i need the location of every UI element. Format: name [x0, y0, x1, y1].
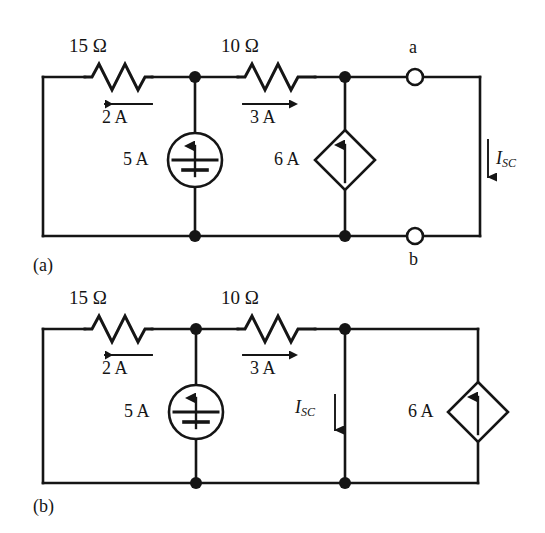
label-terminal-a: a	[409, 38, 417, 56]
resistor-b-10-ohm-symbol	[238, 316, 315, 342]
panel-tag-a: (a)	[33, 256, 53, 274]
label-a-isc-subscript: SC	[502, 156, 516, 170]
terminal-a-circle[interactable]	[407, 69, 423, 85]
label-a-source-5a: 5 A	[123, 150, 149, 168]
junction-dot-b-bottom-mid	[190, 477, 202, 489]
junction-dot-b-bottom-right	[339, 477, 351, 489]
label-a-resistor-15-ohm: 15 Ω	[69, 36, 107, 55]
resistor-b-15-ohm-symbol	[85, 316, 152, 342]
circuit-a-graphics	[43, 64, 488, 244]
circuit-b-graphics	[43, 316, 508, 489]
junction-dot-b-top-mid	[190, 323, 202, 335]
label-b-source-5a: 5 A	[124, 402, 150, 420]
label-b-source-6a: 6 A	[408, 402, 434, 420]
junction-dot-b-top-right	[339, 323, 351, 335]
label-a-resistor-10-ohm: 10 Ω	[221, 36, 259, 55]
figure-canvas: 15 Ω 10 Ω 2 A 3 A 5 A 6 A a b ISC (a) 15…	[0, 0, 545, 533]
junction-dot-a-bottom-mid	[189, 230, 201, 242]
circuit-svg	[0, 0, 545, 533]
panel-tag-b: (b)	[33, 497, 54, 515]
terminal-b-circle[interactable]	[407, 228, 423, 244]
label-a-current-3a: 3 A	[250, 108, 276, 126]
resistor-a-10-ohm-symbol	[238, 64, 315, 90]
label-terminal-b: b	[409, 250, 418, 268]
junction-dot-a-top-right	[339, 71, 351, 83]
junction-dot-a-top-mid	[189, 71, 201, 83]
junction-dot-a-bottom-right	[339, 230, 351, 242]
label-b-isc-subscript: SC	[301, 405, 315, 419]
label-b-resistor-10-ohm: 10 Ω	[221, 288, 259, 307]
label-b-resistor-15-ohm: 15 Ω	[69, 288, 107, 307]
label-b-current-2a: 2 A	[102, 359, 128, 377]
label-b-current-3a: 3 A	[250, 359, 276, 377]
resistor-a-15-ohm-symbol	[85, 64, 152, 90]
label-b-isc: ISC	[295, 398, 315, 418]
label-a-isc: ISC	[496, 149, 516, 169]
label-a-current-2a: 2 A	[102, 108, 128, 126]
label-a-source-6a: 6 A	[274, 150, 300, 168]
